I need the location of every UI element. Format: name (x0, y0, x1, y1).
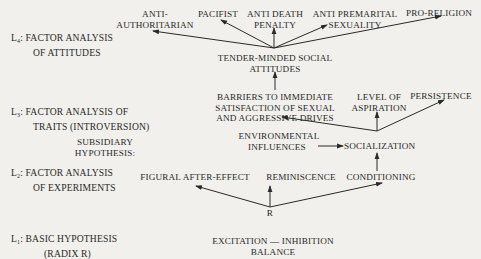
edge-r-to-conditioning (270, 183, 382, 207)
node-socialization: SOCIALIZATION (344, 141, 414, 152)
node-level-of-aspiration: LEVEL OF ASPIRATION (350, 92, 408, 113)
node-radix-r: R (262, 208, 278, 219)
node-pacifist: PACIFIST (190, 9, 246, 20)
node-excitation-inhibition-balance: EXCITATION — INHIBITION BALANCE (210, 236, 336, 257)
node-conditioning: CONDITIONING (346, 172, 416, 183)
edge-r-to-figural (196, 186, 270, 207)
node-persistence: PERSISTENCE (410, 91, 472, 102)
level-label-l2: L2: FACTOR ANALYSIS OF EXPERIMENTS (11, 167, 116, 193)
level-label-l4: L4: FACTOR ANALYSIS OF ATTITUDES (11, 32, 113, 58)
subsidiary-hypothesis-label: SUBSIDIARY HYPOTHESIS: (70, 137, 140, 158)
node-barriers: BARRIERS TO IMMEDIATE SATISFACTION OF SE… (212, 92, 338, 124)
node-figural-after-effect: FIGURAL AFTER-EFFECT (140, 172, 250, 183)
node-anti-authoritarian: ANTI- AUTHORITARIAN (110, 9, 200, 30)
edge-tender-to-anti-authoritarian (153, 31, 274, 48)
node-anti-death-penalty: ANTI DEATH PENALTY (242, 9, 308, 30)
node-reminiscence: REMINISCENCE (266, 172, 336, 183)
node-pro-religion: PRO-RELIGION (404, 8, 474, 19)
node-tender-minded-social-attitudes: TENDER-MINDED SOCIAL ATTITUDES (215, 53, 335, 74)
node-environmental-influences: ENVIRONMENTAL INFLUENCES (238, 131, 320, 152)
node-anti-premarital-sexuality: ANTI PREMARITAL SEXUALITY (310, 9, 400, 30)
level-label-l3: L3: FACTOR ANALYSIS OF TRAITS (INTROVERS… (11, 106, 149, 132)
level-label-l1: L1: BASIC HYPOTHESIS (RADIX R) (11, 233, 117, 259)
